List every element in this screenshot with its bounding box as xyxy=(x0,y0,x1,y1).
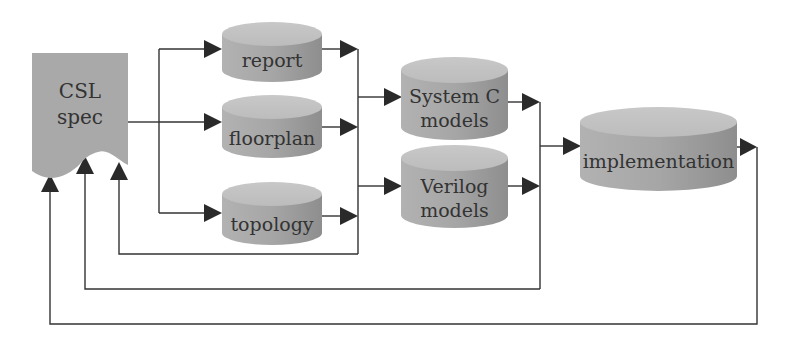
node-implementation[interactable]: implementation xyxy=(580,107,737,191)
implementation-label: implementation xyxy=(583,150,734,172)
floorplan-label: floorplan xyxy=(229,127,315,149)
csl-spec-label-line1: CSL xyxy=(59,79,101,103)
arrowhead-icon xyxy=(563,137,581,155)
arrowhead-icon xyxy=(740,138,757,156)
cylinder-top xyxy=(401,57,508,83)
verilog-label-line2: models xyxy=(420,199,489,221)
cylinder-top xyxy=(580,107,737,137)
report-label: report xyxy=(242,49,303,71)
csl-flow-diagram: CSL spec report floorplan topology Syste… xyxy=(0,0,796,344)
node-verilog-models[interactable]: Verilog models xyxy=(401,145,508,228)
node-systemc-models[interactable]: System C models xyxy=(401,57,508,140)
arrowhead-icon xyxy=(204,113,222,131)
node-topology[interactable]: topology xyxy=(222,182,322,245)
arrowhead-icon xyxy=(204,204,222,222)
cylinder-top xyxy=(222,182,322,206)
systemc-label-line2: models xyxy=(420,109,489,131)
arrowhead-icon xyxy=(204,40,222,58)
systemc-label-line1: System C xyxy=(409,85,500,107)
arrowhead-icon xyxy=(340,118,358,136)
arrowhead-icon xyxy=(110,162,128,180)
node-floorplan[interactable]: floorplan xyxy=(222,95,322,158)
node-csl-spec[interactable]: CSL spec xyxy=(32,53,128,178)
arrowhead-icon xyxy=(340,207,358,225)
cylinder-top xyxy=(401,145,508,171)
arrowhead-icon xyxy=(522,177,540,195)
arrowhead-icon xyxy=(340,40,358,58)
verilog-label-line1: Verilog xyxy=(419,175,488,197)
csl-spec-label-line2: spec xyxy=(57,105,103,129)
arrowhead-icon xyxy=(384,88,402,106)
cylinder-top xyxy=(222,22,322,46)
cylinder-top xyxy=(222,95,322,119)
topology-label: topology xyxy=(230,213,313,235)
arrowhead-icon xyxy=(522,93,540,111)
arrowhead-icon xyxy=(384,177,402,195)
node-report[interactable]: report xyxy=(222,22,322,82)
